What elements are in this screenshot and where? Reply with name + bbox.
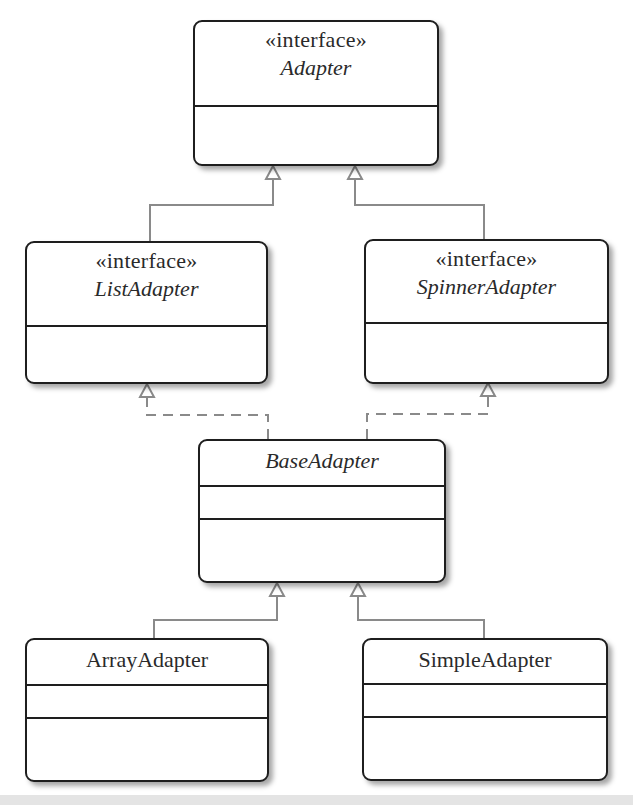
class-listadapter[interactable]: «interface» ListAdapter — [25, 241, 268, 384]
name-compartment: «interface» ListAdapter — [27, 247, 266, 325]
class-name: SimpleAdapter — [364, 646, 606, 674]
realization-baseadapter-to-listadapter — [140, 384, 268, 439]
generalization-arrayadapter-to-baseadapter — [154, 583, 284, 638]
class-simpleadapter[interactable]: SimpleAdapter — [362, 638, 608, 781]
operations-compartment — [366, 322, 607, 382]
generalization-simpleadapter-to-baseadapter — [351, 583, 484, 638]
attributes-compartment — [364, 683, 606, 716]
attributes-compartment — [200, 485, 444, 518]
class-name: BaseAdapter — [200, 447, 444, 475]
class-baseadapter[interactable]: BaseAdapter — [198, 439, 446, 583]
class-name: ArrayAdapter — [27, 646, 267, 674]
operations-compartment — [364, 716, 606, 779]
stereotype-label: «interface» — [195, 26, 437, 54]
stereotype-label: «interface» — [366, 245, 607, 273]
stereotype-label: «interface» — [27, 247, 266, 275]
name-compartment: ArrayAdapter — [27, 646, 267, 684]
class-arrayadapter[interactable]: ArrayAdapter — [25, 638, 269, 782]
operations-compartment — [200, 518, 444, 581]
name-compartment: «interface» Adapter — [195, 26, 437, 106]
generalization-listadapter-to-adapter — [150, 166, 280, 241]
name-compartment: «interface» SpinnerAdapter — [366, 245, 607, 323]
class-name: ListAdapter — [27, 275, 266, 303]
realization-baseadapter-to-spinneradapter — [367, 383, 495, 439]
name-compartment: BaseAdapter — [200, 447, 444, 485]
generalization-spinneradapter-to-adapter — [348, 166, 484, 239]
operations-compartment — [27, 717, 267, 780]
attributes-compartment — [27, 684, 267, 717]
class-name: SpinnerAdapter — [366, 273, 607, 301]
class-name: Adapter — [195, 54, 437, 82]
operations-compartment — [195, 105, 437, 164]
operations-compartment — [27, 325, 266, 382]
class-adapter[interactable]: «interface» Adapter — [193, 20, 439, 166]
name-compartment: SimpleAdapter — [364, 646, 606, 684]
class-spinneradapter[interactable]: «interface» SpinnerAdapter — [364, 239, 609, 384]
